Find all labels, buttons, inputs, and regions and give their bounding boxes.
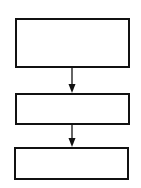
arrow-down-icon [69,125,76,147]
connector-layer [0,0,141,188]
arrow-down-icon [69,68,76,93]
